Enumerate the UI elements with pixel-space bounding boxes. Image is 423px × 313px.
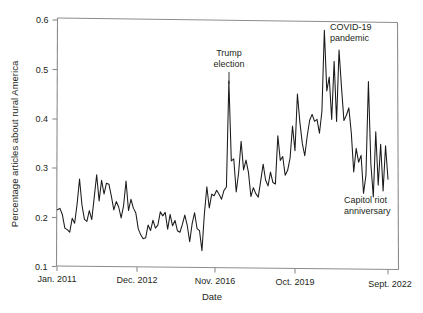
y-axis-line [57,18,58,266]
y-tick-label-0.3: 0.3 [35,163,48,173]
y-tick-label-0.2: 0.2 [35,213,48,223]
annotation-trump-line2: election [213,59,244,69]
y-tick-label-0.5: 0.5 [36,65,49,75]
x-tick-label-dec-2012: Dec. 2012 [116,275,157,285]
y-tick-label-0.1: 0.1 [35,262,48,272]
x-axis-tick-labels: Jan. 2011 Dec. 2012 Nov. 2016 Oct. 2019 … [38,274,412,289]
annotation-trump-election: Trump election [213,48,244,84]
annotation-capitol-line1: Capitol riot [344,195,388,205]
y-tick-label-0.4: 0.4 [36,114,49,124]
annotation-covid-line2: pandemic [330,33,370,43]
y-axis-title: Percentage articles about rural America [9,60,20,227]
x-axis-title: Date [202,291,222,302]
y-axis-tick-labels: 0.6 0.5 0.4 0.3 0.2 0.1 [35,15,49,272]
frame-right-edge [398,23,399,270]
annotation-capitol-riot-anniversary: Capitol riot anniversary [344,195,391,216]
chart-figure: 0.6 0.5 0.4 0.3 0.2 0.1 Jan. 2011 Dec. 2… [0,0,423,313]
annotation-capitol-line2: anniversary [344,206,391,216]
x-tick-label-nov-2016: Nov. 2016 [195,276,235,286]
x-tick-label-oct-2019: Oct. 2019 [275,277,314,287]
x-tick-label-jan-2011: Jan. 2011 [38,274,77,284]
annotation-covid-19-pandemic: COVID-19 pandemic [330,22,372,43]
annotation-trump-line1: Trump [216,48,242,58]
x-axis-line [57,266,399,270]
x-tick-label-sept-2022: Sept. 2022 [368,279,412,289]
line-chart: 0.6 0.5 0.4 0.3 0.2 0.1 Jan. 2011 Dec. 2… [0,0,423,313]
annotation-covid-line1: COVID-19 [330,22,372,32]
y-tick-label-0.6: 0.6 [36,15,49,25]
